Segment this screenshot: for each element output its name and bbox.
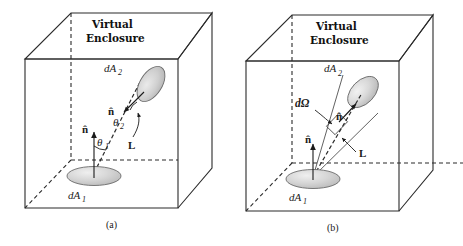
- distance-leader-a: [133, 113, 139, 137]
- area-element-1-label-a: dA: [68, 189, 81, 201]
- figure-container: Virtual Enclosure dA 2 n̂ θ 2 dA 1: [0, 0, 463, 246]
- distance-label-b: L: [359, 147, 366, 159]
- normal-label-cone-b: n̂: [336, 110, 342, 122]
- distance-label-a: L: [128, 139, 135, 151]
- area-element-2-label-b: dA: [324, 62, 337, 74]
- panel-b-drawing: Virtual Enclosure dA 2: [232, 0, 463, 246]
- area-element-1-label-sub-b: 1: [303, 197, 307, 206]
- panel-a-drawing: Virtual Enclosure dA 2 n̂ θ 2 dA 1: [0, 0, 231, 246]
- angle-label-1-sub-a: 1: [105, 142, 109, 151]
- area-element-1-label-sub-a: 1: [82, 195, 86, 204]
- panel-a: Virtual Enclosure dA 2 n̂ θ 2 dA 1: [0, 0, 231, 246]
- enclosure-label-line2-b: Enclosure: [310, 34, 369, 46]
- cube-right-face-b: [399, 15, 433, 211]
- solid-angle-leader-b: [315, 110, 332, 124]
- panel-caption-b: (b): [327, 222, 339, 234]
- area-element-2-label-sub-b: 2: [338, 69, 342, 78]
- normal-label-1-b: n̂: [305, 133, 311, 145]
- cube-right-face-a: [178, 13, 212, 208]
- panel-caption-a: (a): [106, 219, 117, 231]
- enclosure-label-line1-b: Virtual: [315, 20, 357, 32]
- area-element-2-disc-b: [342, 71, 384, 114]
- area-element-2-a: [131, 62, 170, 107]
- area-element-1-label-b: dA: [289, 191, 302, 203]
- area-element-2-disc-a: [131, 62, 170, 107]
- panel-b: Virtual Enclosure dA 2: [232, 0, 463, 246]
- cube-edge-back-diag-left-a: [25, 160, 71, 208]
- angle-label-2-sub-a: 2: [120, 122, 124, 131]
- normal-label-1-a: n̂: [82, 123, 88, 135]
- distance-leader-b: [342, 138, 356, 152]
- area-element-2-label-sub-a: 2: [118, 68, 122, 77]
- enclosure-label-line2-a: Enclosure: [86, 32, 145, 44]
- enclosure-label-line1-a: Virtual: [91, 18, 133, 30]
- solid-angle-cone-b: [313, 71, 384, 177]
- angle-label-2-a: θ: [113, 116, 119, 128]
- cube-edge-back-diag-left-b: [246, 163, 292, 211]
- angle-label-1-a: θ: [97, 136, 103, 148]
- solid-angle-label-b: dΩ: [295, 97, 310, 109]
- area-element-2-label-a: dA: [104, 62, 117, 74]
